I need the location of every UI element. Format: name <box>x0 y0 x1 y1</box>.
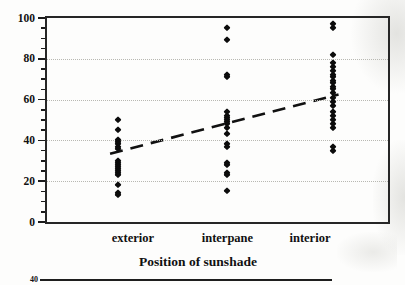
y-tick-label-60: 60 <box>5 93 35 106</box>
category-label-interior: interior <box>289 231 330 246</box>
y-major-tick-20 <box>38 180 45 182</box>
next-chart-tick-label: 40 <box>26 275 38 284</box>
y-major-tick-0 <box>38 221 45 223</box>
trend-line <box>47 18 388 222</box>
y-tick-label-100: 100 <box>5 12 35 25</box>
y-major-tick-100 <box>38 17 45 19</box>
y-major-tick-40 <box>38 140 45 142</box>
gridline-60 <box>47 100 388 101</box>
y-major-tick-60 <box>38 99 45 101</box>
gridline-20 <box>47 181 388 182</box>
y-tick-label-40: 40 <box>5 134 35 147</box>
y-tick-label-0: 0 <box>5 216 35 229</box>
next-chart-top-border <box>40 279 332 281</box>
category-label-interpane: interpane <box>202 231 253 246</box>
scatter-chart-figure: g-sunshade (%) 020406080100 exteriorinte… <box>0 0 405 285</box>
scan-artifact <box>337 232 397 272</box>
gridline-40 <box>47 140 388 141</box>
x-axis-title: Position of sunshade <box>139 254 257 270</box>
y-tick-label-20: 20 <box>5 175 35 188</box>
plot-area <box>45 16 390 224</box>
category-label-exterior: exterior <box>112 231 154 246</box>
y-major-tick-80 <box>38 58 45 60</box>
gridline-80 <box>47 59 388 60</box>
y-tick-label-80: 80 <box>5 52 35 65</box>
